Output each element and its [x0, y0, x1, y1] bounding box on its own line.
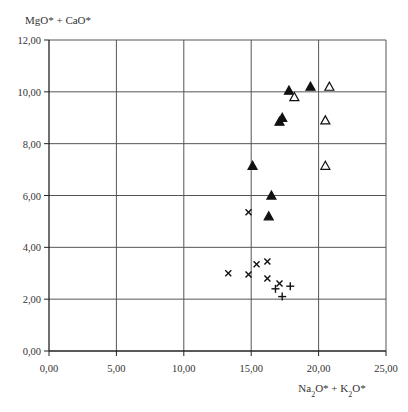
x-tick-label: 15,00	[239, 363, 263, 374]
scatter-chart: 0,002,004,006,008,0010,0012,00 0,005,001…	[0, 0, 408, 412]
x-marker	[264, 275, 270, 281]
y-tick-label: 0,00	[23, 346, 41, 357]
x-marker	[264, 259, 270, 265]
x-tick-label: 10,00	[172, 363, 196, 374]
x-marker	[246, 209, 252, 215]
grid-lines	[49, 40, 386, 351]
x-marker	[225, 270, 231, 276]
y-tick-label: 12,00	[17, 35, 41, 46]
y-tick-label: 2,00	[23, 294, 41, 305]
plus-marker	[271, 285, 279, 293]
filled-triangle-marker	[264, 212, 273, 220]
open-triangle-marker	[325, 82, 334, 90]
y-tick-label: 6,00	[23, 191, 41, 202]
x-tick-label: 0,00	[40, 363, 58, 374]
filled-triangle-marker	[306, 82, 315, 90]
open-triangle-marker	[321, 116, 330, 124]
open-triangle-marker	[321, 161, 330, 169]
y-tick-label: 10,00	[17, 87, 41, 98]
x-tick-label: 5,00	[107, 363, 125, 374]
filled-triangle-marker	[248, 161, 257, 169]
x-tick-label: 25,00	[374, 363, 398, 374]
x-marker	[246, 272, 252, 278]
data-points	[225, 82, 334, 300]
y-tick-label: 4,00	[23, 242, 41, 253]
plus-marker	[286, 282, 294, 290]
x-marker	[254, 261, 260, 267]
x-axis-title: Na2O* + K2O*	[298, 382, 365, 399]
x-axis-ticks: 0,005,0010,0015,0020,0025,00	[40, 351, 398, 374]
filled-triangle-marker	[284, 86, 293, 94]
y-axis-ticks: 0,002,004,006,008,0010,0012,00	[17, 35, 49, 357]
x-tick-label: 20,00	[307, 363, 331, 374]
x-marker	[277, 281, 283, 287]
y-tick-label: 8,00	[23, 139, 41, 150]
y-axis-title: MgO* + CaO*	[25, 14, 91, 26]
